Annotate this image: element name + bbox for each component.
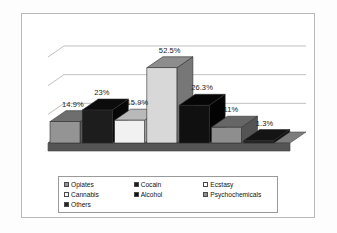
legend-spacer bbox=[203, 200, 273, 209]
bar-data-label: 11% bbox=[223, 105, 238, 114]
legend-label: Cocain bbox=[141, 180, 162, 189]
bar-data-label: 26.3% bbox=[191, 83, 213, 92]
chart-screenshot: 14.9%23%15.9%52.5%26.3%11%1.3% OpiatesCo… bbox=[0, 0, 337, 233]
legend-item-others[interactable]: Others bbox=[64, 200, 134, 209]
chart-legend: OpiatesCocainEcstasyCannabisAlcoholPsych… bbox=[58, 176, 278, 213]
legend-grid: OpiatesCocainEcstasyCannabisAlcoholPsych… bbox=[64, 180, 273, 209]
legend-item-psychochemicals[interactable]: Psychochemicals bbox=[203, 190, 273, 199]
column-chart-3d bbox=[28, 19, 309, 164]
bar-data-label: 15.9% bbox=[127, 98, 149, 107]
chart-frame: 14.9%23%15.9%52.5%26.3%11%1.3% OpiatesCo… bbox=[21, 13, 315, 218]
bar-data-label: 14.9% bbox=[62, 100, 84, 109]
bar-data-label: 52.5% bbox=[159, 46, 181, 55]
bar-data-label: 1.3% bbox=[256, 119, 274, 128]
bar-data-label: 23% bbox=[94, 88, 109, 97]
legend-swatch-icon bbox=[64, 182, 69, 187]
legend-swatch-icon bbox=[134, 182, 139, 187]
legend-item-cannabis[interactable]: Cannabis bbox=[64, 190, 134, 199]
legend-label: Psychochemicals bbox=[210, 190, 261, 199]
legend-item-alcohol[interactable]: Alcohol bbox=[134, 190, 204, 199]
legend-swatch-icon bbox=[64, 192, 69, 197]
legend-swatch-icon bbox=[134, 192, 139, 197]
legend-item-opiates[interactable]: Opiates bbox=[64, 180, 134, 189]
legend-label: Ecstasy bbox=[210, 180, 233, 189]
legend-spacer bbox=[134, 200, 204, 209]
legend-swatch-icon bbox=[203, 192, 208, 197]
plot-area: 14.9%23%15.9%52.5%26.3%11%1.3% bbox=[28, 19, 309, 164]
legend-item-cocain[interactable]: Cocain bbox=[134, 180, 204, 189]
legend-label: Opiates bbox=[71, 180, 94, 189]
legend-label: Alcohol bbox=[141, 190, 163, 199]
legend-label: Cannabis bbox=[71, 190, 99, 199]
legend-swatch-icon bbox=[64, 202, 69, 207]
legend-label: Others bbox=[71, 200, 91, 209]
legend-item-ecstasy[interactable]: Ecstasy bbox=[203, 180, 273, 189]
legend-swatch-icon bbox=[203, 182, 208, 187]
